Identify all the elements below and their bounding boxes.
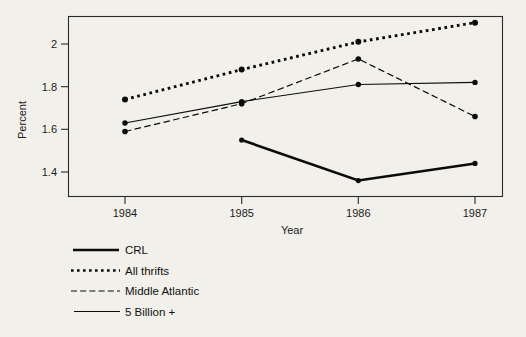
line-chart-figure: 2 1.8 1.6 1.4 Percent 1984 1985 1986 198… <box>0 0 526 337</box>
data-point <box>356 56 362 62</box>
y-tick-label-1-8: 1.8 <box>42 81 57 93</box>
data-point <box>122 129 128 135</box>
x-tick-label-1984: 1984 <box>113 207 137 219</box>
data-point <box>122 120 127 125</box>
data-point <box>472 161 477 166</box>
x-tick-label-1986: 1986 <box>346 207 370 219</box>
x-axis-title: Year <box>281 224 304 236</box>
data-point <box>239 67 245 73</box>
data-point <box>356 178 361 183</box>
y-tick-label-1-6: 1.6 <box>42 123 57 135</box>
data-point <box>472 80 477 85</box>
data-point <box>472 20 478 26</box>
y-axis-title: Percent <box>16 101 28 139</box>
data-point <box>239 99 244 104</box>
legend-label-5-billion-plus: 5 Billion + <box>125 306 175 318</box>
data-point <box>355 39 361 45</box>
legend-label-crl: CRL <box>125 244 149 256</box>
y-tick-label-2: 2 <box>51 38 57 50</box>
data-point <box>472 114 478 120</box>
data-point <box>239 137 244 142</box>
data-point <box>356 82 361 87</box>
x-tick-label-1987: 1987 <box>463 207 487 219</box>
data-point <box>122 96 128 102</box>
legend-label-all-thrifts: All thrifts <box>125 265 169 277</box>
y-tick-label-1-4: 1.4 <box>42 166 57 178</box>
x-tick-label-1985: 1985 <box>229 207 253 219</box>
legend-label-middle-atlantic: Middle Atlantic <box>125 285 199 297</box>
